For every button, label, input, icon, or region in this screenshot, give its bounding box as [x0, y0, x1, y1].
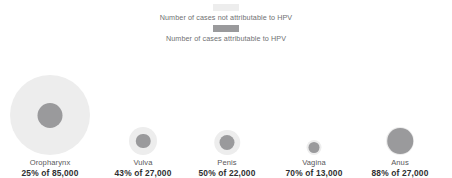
bubble-site-stat-penis: 50% of 22,000: [199, 168, 256, 178]
legend-swatch-not-attributable: [213, 4, 239, 11]
circle-attributable-vagina: [309, 142, 320, 153]
legend-item-attributable: Number of cases attributable to HPV: [166, 25, 286, 43]
legend-label-not-attributable: Number of cases not attributable to HPV: [160, 13, 293, 22]
bubble-group-vulva[interactable]: Vulva 43% of 27,000: [97, 69, 189, 178]
bubble-site-name-penis: Penis: [199, 158, 256, 168]
bubble-label-block-penis: Penis 50% of 22,000: [199, 158, 256, 178]
bubble-label-block-vagina: Vagina 70% of 13,000: [286, 158, 343, 178]
circle-attributable-vulva: [136, 134, 151, 149]
legend-swatch-attributable: [213, 25, 239, 32]
legend-item-not-attributable: Number of cases not attributable to HPV: [160, 4, 293, 22]
bubble-graphic-vagina: [268, 69, 360, 155]
bubble-group-penis[interactable]: Penis 50% of 22,000: [181, 69, 273, 178]
bubble-site-name-oropharynx: Oropharynx: [22, 158, 79, 168]
bubble-label-block-oropharynx: Oropharynx 25% of 85,000: [22, 158, 79, 178]
bubble-graphic-anus: [354, 69, 446, 155]
bubble-group-vagina[interactable]: Vagina 70% of 13,000: [268, 69, 360, 178]
bubble-site-name-anus: Anus: [372, 158, 429, 168]
bubble-group-anus[interactable]: Anus 88% of 27,000: [354, 69, 446, 178]
bubble-chart-plot-area: Oropharynx 25% of 85,000 Vulva 43% of 27…: [0, 56, 452, 178]
bubble-graphic-penis: [181, 69, 273, 155]
bubble-group-oropharynx[interactable]: Oropharynx 25% of 85,000: [4, 69, 96, 178]
bubble-site-stat-vagina: 70% of 13,000: [286, 168, 343, 178]
chart-legend: Number of cases not attributable to HPV …: [0, 4, 452, 46]
circle-attributable-oropharynx: [38, 103, 63, 128]
bubble-label-block-vulva: Vulva 43% of 27,000: [115, 158, 172, 178]
bubble-site-stat-vulva: 43% of 27,000: [115, 168, 172, 178]
bubble-site-name-vulva: Vulva: [115, 158, 172, 168]
bubble-label-block-anus: Anus 88% of 27,000: [372, 158, 429, 178]
circle-attributable-penis: [220, 135, 235, 150]
circle-attributable-anus: [387, 128, 413, 154]
bubble-site-stat-anus: 88% of 27,000: [372, 168, 429, 178]
legend-label-attributable: Number of cases attributable to HPV: [166, 34, 286, 43]
bubble-site-stat-oropharynx: 25% of 85,000: [22, 168, 79, 178]
bubble-graphic-vulva: [97, 69, 189, 155]
bubble-graphic-oropharynx: [4, 69, 96, 155]
bubble-site-name-vagina: Vagina: [286, 158, 343, 168]
